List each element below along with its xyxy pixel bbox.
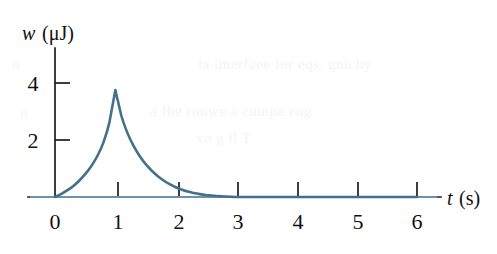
y-axis-label-symbol: w [22, 22, 36, 44]
y-tick-label-2: 2 [28, 128, 39, 153]
x-tick-label-4: 4 [293, 209, 304, 234]
x-axis-label-symbol: t [447, 187, 453, 209]
x-axis-label-units: (s) [459, 187, 480, 210]
x-tick-label-2: 2 [174, 209, 185, 234]
y-axis-label-units: (μJ) [42, 22, 74, 45]
data-curve [55, 90, 417, 197]
y-tick-label-4: 4 [28, 71, 39, 96]
x-tick-label-1: 1 [113, 209, 124, 234]
chart-svg: w (μJ) t (s) 4 2 0 1 2 3 4 5 6 [0, 0, 497, 254]
x-tick-label-0: 0 [50, 209, 61, 234]
x-tick-label-3: 3 [233, 209, 244, 234]
chart-figure: o la imerfaee for eqs. gnichy u a fhe ro… [0, 0, 497, 254]
x-tick-label-6: 6 [412, 209, 423, 234]
x-tick-label-5: 5 [353, 209, 364, 234]
